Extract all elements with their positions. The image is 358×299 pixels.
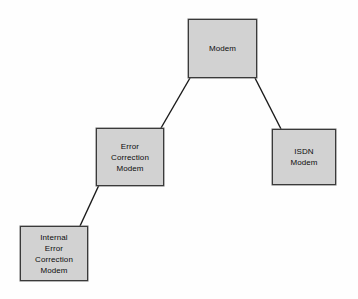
node-error-correction-modem-label-line-1: Error (121, 141, 139, 152)
node-internal-error-correction-modem-label-line-1: Internal (40, 232, 67, 243)
connector-error-correction-modem-to-internal (80, 185, 99, 226)
node-isdn-modem-label-line-1: ISDN (294, 146, 314, 157)
node-internal-error-correction-modem-label-line-3: Correction (35, 254, 73, 265)
node-modem[interactable]: Modem (188, 19, 257, 78)
node-modem-label-line-1: Modem (209, 43, 236, 54)
node-isdn-modem-label-line-2: Modem (290, 157, 317, 168)
node-error-correction-modem-label-line-2: Correction (111, 152, 149, 163)
node-error-correction-modem[interactable]: Error Correction Modem (96, 128, 164, 186)
node-isdn-modem[interactable]: ISDN Modem (272, 129, 336, 185)
node-internal-error-correction-modem-label-line-2: Error (45, 243, 63, 254)
connector-modem-to-error-correction-modem (161, 78, 190, 128)
node-internal-error-correction-modem-label-line-4: Modem (40, 265, 67, 276)
diagram-canvas: Modem Error Correction Modem ISDN Modem … (0, 0, 358, 299)
node-error-correction-modem-label-line-3: Modem (116, 163, 143, 174)
connector-modem-to-isdn-modem (255, 78, 281, 129)
node-internal-error-correction-modem[interactable]: Internal Error Correction Modem (20, 226, 88, 281)
